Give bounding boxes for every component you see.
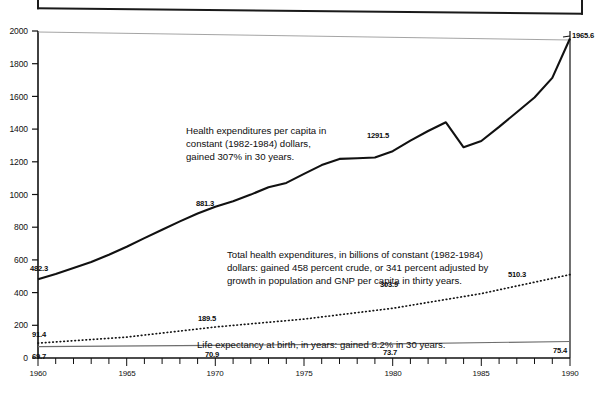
y-tick-label-1200: 1200 — [0, 157, 28, 167]
y-tick-label-1800: 1800 — [0, 59, 28, 69]
data-label-total-1970: 189.5 — [198, 314, 216, 323]
annotation-total-line-3: growth in population and GNP per capita … — [227, 274, 462, 287]
annotation-per-capita-line-1: Health expenditures per capita in — [186, 124, 326, 137]
x-tick-label-1985: 1985 — [464, 369, 498, 378]
data-label-total-1960: 91.4 — [32, 330, 46, 339]
y-tick-label-2000: 2000 — [0, 26, 28, 36]
data-label-life-exp-1990: 75.4 — [553, 346, 567, 355]
x-tick-label-1975: 1975 — [287, 369, 321, 378]
figure-container: 0 200 400 600 800 1000 1200 1400 1600 18… — [0, 0, 595, 394]
annotation-per-capita-line-3: gained 307% in 30 years. — [186, 150, 294, 163]
data-label-life-exp-1960: 69.7 — [32, 352, 46, 361]
x-tick-label-1980: 1980 — [376, 369, 410, 378]
y-tick-label-1000: 1000 — [0, 190, 28, 200]
data-label-per-capita-1981: 1291.5 — [367, 131, 389, 140]
annotation-total-line-2: dollars: gained 458 percent crude, or 34… — [227, 261, 488, 274]
x-tick-label-1965: 1965 — [110, 369, 144, 378]
y-tick-label-400: 400 — [0, 288, 28, 298]
endpoint-marker-per-capita — [563, 36, 570, 37]
y-tick-label-0: 0 — [0, 353, 28, 363]
y-tick-label-1600: 1600 — [0, 92, 28, 102]
annotation-life-expectancy: Life expectancy at birth, in years: gain… — [197, 338, 446, 351]
y-tick-label-800: 800 — [0, 222, 28, 232]
y-tick-label-1400: 1400 — [0, 124, 28, 134]
x-tick-label-1960: 1960 — [21, 369, 55, 378]
annotation-total-line-1: Total health expenditures, in billions o… — [227, 248, 483, 261]
y-axis-ticks — [32, 31, 38, 358]
y-tick-label-200: 200 — [0, 320, 28, 330]
x-tick-label-1970: 1970 — [198, 369, 232, 378]
top-edge-hairline — [38, 32, 570, 40]
annotation-per-capita-line-2: constant (1982-1984) dollars, — [186, 137, 311, 150]
data-label-total-1990: 510.3 — [508, 270, 526, 279]
x-axis-minor-ticks — [38, 358, 570, 366]
data-label-per-capita-1960: 482.3 — [30, 264, 48, 273]
data-label-per-capita-1975: 881.3 — [196, 199, 214, 208]
line-chart-canvas — [0, 0, 595, 394]
x-tick-label-1990: 1990 — [553, 369, 587, 378]
data-label-per-capita-1990: 1965.6 — [572, 31, 594, 40]
series-per-capita-line — [38, 39, 570, 280]
y-tick-label-600: 600 — [0, 255, 28, 265]
